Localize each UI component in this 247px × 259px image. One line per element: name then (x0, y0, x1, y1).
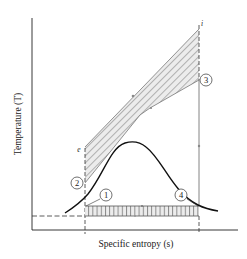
x-axis-label: Specific entropy (s) (99, 239, 174, 250)
state-point-3: 3 (200, 74, 212, 86)
leader-line-1 (86, 199, 100, 206)
y-axis-label: Temperature (T) (13, 93, 24, 155)
flow-arrow-marker (150, 107, 152, 109)
heat-source-band (85, 29, 199, 183)
axes (32, 18, 238, 230)
heat-sink-band (85, 205, 199, 217)
ts-diagram: 2 1 4 3 e i Specific entropy (s) Tempera… (0, 0, 247, 259)
flow-arrow-marker (198, 145, 200, 147)
state-point-2: 2 (71, 177, 83, 189)
state-label-2: 2 (75, 178, 79, 188)
flow-arrow-marker (132, 95, 135, 98)
state-point-1: 1 (100, 189, 112, 201)
state-label-3: 3 (204, 75, 208, 85)
state-label-1: 1 (104, 190, 108, 200)
stream-label-i: i (201, 19, 203, 28)
state-point-4: 4 (175, 189, 187, 201)
stream-label-e: e (77, 145, 81, 154)
flow-arrow-marker (141, 205, 143, 207)
leader-line-4 (187, 199, 198, 206)
flow-arrow-marker (134, 215, 136, 217)
